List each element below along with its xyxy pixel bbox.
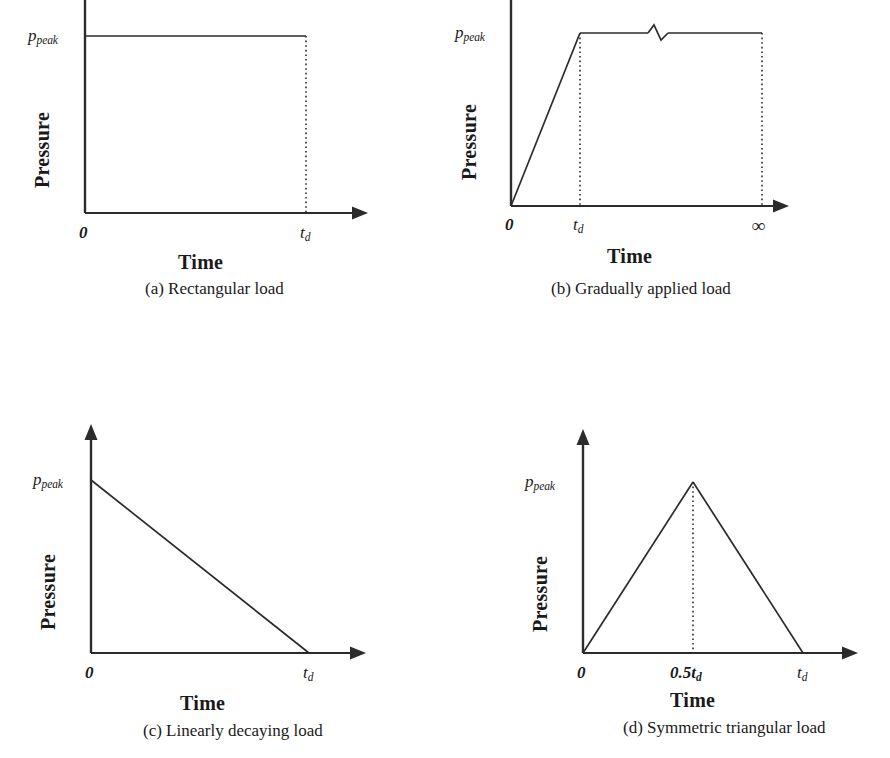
panel-c-linearly-decaying-load: ppeak 0 td Time Pressure (c) Linearly de… [0,400,445,758]
y-axis-title: Pressure [459,104,479,180]
panel-a-rectangular-load: ppeak 0 td Time Pressure (a) Rectangular… [0,0,445,300]
load-curve-fall [693,482,803,653]
load-curve-rise [583,482,693,653]
x-tick-label-td: td [303,664,313,683]
x-tick-label-infinity: ∞ [752,216,766,235]
load-curve-decay [91,480,309,653]
panel-b-gradually-applied-load: ppeak 0 td ∞ Time Pressure (b) Gradually… [445,0,890,300]
panel-c-caption: (c) Linearly decaying load [143,721,323,741]
figure-blast-load-shapes: ppeak 0 td Time Pressure (a) Rectangular… [0,0,890,758]
x-axis-title: Time [178,252,223,272]
x-tick-label-half-td: 0.5td [670,664,702,683]
x-tick-label-zero: 0 [85,664,94,681]
y-axis-arrowhead [85,424,98,440]
panel-b-caption: (b) Gradually applied load [551,279,731,299]
x-tick-label-td: td [300,224,310,243]
y-axis-title: Pressure [38,554,58,630]
y-tick-label-ppeak: ppeak [525,473,555,492]
x-tick-label-zero: 0 [505,216,514,233]
break-zigzag-symbol [648,25,668,40]
x-tick-label-zero: 0 [577,664,586,681]
x-axis-arrowhead [773,200,789,213]
load-curve-ramp [511,33,580,206]
panel-d-caption: (d) Symmetric triangular load [623,718,826,738]
y-tick-label-ppeak: ppeak [33,471,63,490]
y-tick-label-ppeak: ppeak [28,27,58,46]
x-tick-label-td: td [797,664,807,683]
y-axis-arrowhead [577,429,590,445]
panel-b-plot [445,0,890,300]
panel-a-caption: (a) Rectangular load [145,279,284,299]
y-axis-title: Pressure [32,112,52,188]
x-axis-title: Time [607,246,652,266]
y-axis-title: Pressure [530,556,550,632]
x-axis-title: Time [670,690,715,710]
x-axis-title: Time [180,693,225,713]
x-tick-label-td: td [573,216,583,235]
x-axis-arrowhead [350,647,366,660]
x-tick-label-zero: 0 [79,224,88,241]
x-axis-arrowhead [842,647,858,660]
panel-d-symmetric-triangular-load: ppeak 0 0.5td td Time Pressure (d) Symme… [445,400,890,758]
x-axis-arrowhead [352,207,368,220]
y-tick-label-ppeak: ppeak [455,24,485,43]
panel-d-plot [445,400,890,758]
